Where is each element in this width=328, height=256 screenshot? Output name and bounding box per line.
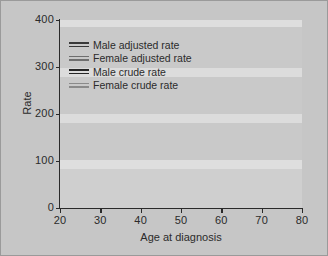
y-tick-label: 100 <box>8 154 54 166</box>
x-tick <box>60 209 61 213</box>
legend-swatch-icon <box>69 42 89 49</box>
x-tick-label: 60 <box>206 214 236 226</box>
background-band-lower <box>60 169 302 208</box>
x-axis-title: Age at diagnosis <box>60 231 302 243</box>
legend-swatch-icon <box>69 69 89 76</box>
background-band-200 <box>60 114 302 123</box>
x-tick <box>141 209 142 213</box>
chart-figure: 0100200300400 20304050607080 Rate Age at… <box>0 0 328 256</box>
x-tick-label: 50 <box>166 214 196 226</box>
legend-item-label: Female crude rate <box>93 80 178 91</box>
background-band-100 <box>60 160 302 169</box>
y-axis-title: Rate <box>21 73 33 133</box>
background-band-mid-lower <box>60 123 302 160</box>
y-tick <box>56 161 60 162</box>
x-tick <box>221 209 222 213</box>
legend-item-male-adjusted: Male adjusted rate <box>69 39 192 51</box>
y-tick <box>56 67 60 68</box>
legend-item-label: Female adjusted rate <box>93 53 192 64</box>
legend-swatch-icon <box>69 55 89 62</box>
y-tick <box>56 20 60 21</box>
y-tick <box>56 114 60 115</box>
x-tick <box>100 209 101 213</box>
legend-item-label: Male crude rate <box>93 67 166 78</box>
background-band-400 <box>60 20 302 27</box>
legend-item-female-adjusted: Female adjusted rate <box>69 53 192 65</box>
legend-item-female-crude: Female crude rate <box>69 80 192 92</box>
chart-legend: Male adjusted rate Female adjusted rate … <box>69 39 192 93</box>
y-tick-label: 0 <box>8 201 54 213</box>
x-tick-label: 40 <box>126 214 156 226</box>
legend-swatch-icon <box>69 82 89 89</box>
legend-item-label: Male adjusted rate <box>93 40 179 51</box>
x-tick-label: 30 <box>85 214 115 226</box>
x-tick-label: 70 <box>247 214 277 226</box>
y-tick-label: 300 <box>8 60 54 72</box>
x-tick <box>181 209 182 213</box>
y-tick-label: 400 <box>8 13 54 25</box>
x-tick <box>262 209 263 213</box>
y-tick <box>56 208 60 209</box>
x-tick <box>302 209 303 213</box>
x-tick-label: 80 <box>287 214 317 226</box>
legend-item-male-crude: Male crude rate <box>69 66 192 78</box>
x-tick-label: 20 <box>45 214 75 226</box>
